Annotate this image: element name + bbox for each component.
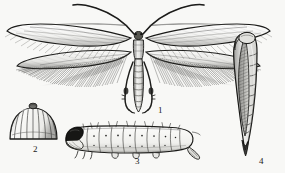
egg-micropyle-knob [29, 103, 37, 109]
pupa-head [239, 32, 255, 43]
illustration-plate: 1 2 3 4 [0, 0, 285, 173]
figure-egg [10, 103, 57, 140]
figure-label-4: 4 [259, 157, 264, 166]
figure-label-3: 3 [135, 157, 140, 166]
leg-spur-right [149, 88, 154, 95]
plate-artwork [0, 0, 285, 173]
figure-larva [66, 121, 201, 159]
larva-anal-proleg [188, 147, 200, 159]
moth-abdomen [134, 59, 144, 112]
figure-pupa [232, 32, 257, 156]
larva-tail-seta [192, 132, 200, 135]
larva-prothorax [66, 140, 83, 149]
larva-thoracic-legs [75, 151, 92, 159]
figure-label-2: 2 [33, 145, 38, 154]
moth-head-thorax [133, 32, 143, 60]
leg-spur-left [124, 88, 129, 95]
figure-label-1: 1 [158, 106, 163, 115]
